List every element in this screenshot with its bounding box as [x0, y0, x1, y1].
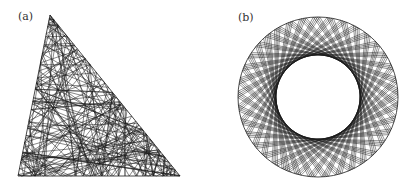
circle-billiard-trajectory — [238, 17, 398, 177]
figure-canvas — [0, 0, 411, 186]
triangle-billiard-trajectory — [18, 15, 180, 176]
